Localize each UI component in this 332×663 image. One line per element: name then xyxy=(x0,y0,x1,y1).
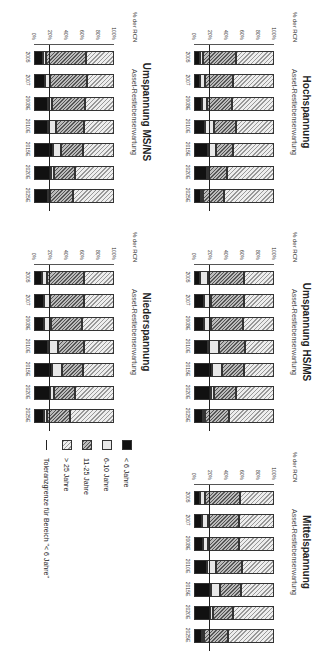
stacked-bar xyxy=(194,51,274,65)
bar-segment xyxy=(244,363,274,377)
x-tick: 2010E xyxy=(25,336,31,356)
stacked-bar xyxy=(34,166,114,180)
legend-item-gt25: > 25 Jahre xyxy=(62,440,72,491)
bar-segment xyxy=(85,97,114,111)
swatch-icon xyxy=(82,440,92,450)
bar-segment xyxy=(213,606,233,620)
panel-hochspannung: HochspannungAsset-Restlebenserwartung% d… xyxy=(172,12,312,212)
y-tick: 0% xyxy=(191,473,197,480)
bar-segment xyxy=(239,514,274,528)
bar-segment xyxy=(241,583,274,597)
x-tick: 2020E xyxy=(185,382,191,402)
plot-area xyxy=(34,44,114,211)
x-tick: 2015E xyxy=(25,359,31,379)
legend-item-6-10: 6-10 Jahre xyxy=(102,440,112,491)
stacked-bar xyxy=(34,189,114,203)
bar-segment xyxy=(240,491,274,505)
stacked-bar xyxy=(194,386,274,400)
bar-segment xyxy=(203,189,224,203)
y-tick: 0% xyxy=(191,33,197,40)
bar-segment xyxy=(214,120,236,134)
bar-segment xyxy=(236,120,274,134)
stacked-bar xyxy=(194,294,274,308)
bar-segment xyxy=(242,560,274,574)
bar-segment xyxy=(53,143,61,157)
bar-segment xyxy=(50,294,84,308)
bar-segment xyxy=(194,606,210,620)
bar-segment xyxy=(194,317,204,331)
bar-segment xyxy=(200,74,205,88)
x-tick: 2025E xyxy=(185,405,191,425)
bar-segment xyxy=(208,537,238,551)
plot-area xyxy=(194,484,274,651)
x-tick: 2025E xyxy=(25,185,31,205)
bar-segment xyxy=(87,74,114,88)
bar-segment xyxy=(208,514,239,528)
plot-area xyxy=(34,264,114,431)
bar-segment xyxy=(216,143,233,157)
x-tick: 2007 xyxy=(185,290,191,310)
x-tick: 2008E xyxy=(185,313,191,333)
bar-segment xyxy=(239,537,274,551)
stacked-bar xyxy=(34,294,114,308)
bar-segment xyxy=(194,629,202,643)
bar-segment xyxy=(194,514,202,528)
bar-segment xyxy=(224,189,274,203)
bar-segment xyxy=(211,386,214,400)
panel-title: Umspannung HS/MS xyxy=(301,232,312,432)
legend-item-11-25: 11-25 Jahre xyxy=(82,440,92,495)
stacked-bar xyxy=(194,537,274,551)
bar-segment xyxy=(50,189,73,203)
bar-segment xyxy=(200,491,205,505)
bar-segment xyxy=(34,271,42,285)
bar-segment xyxy=(84,271,114,285)
bar-segment xyxy=(43,51,46,65)
bar-segment xyxy=(34,317,44,331)
tolerance-line xyxy=(209,45,210,211)
bar-segment xyxy=(61,143,83,157)
bar-segment xyxy=(232,97,274,111)
bar-segment xyxy=(34,143,53,157)
stacked-bar xyxy=(34,363,114,377)
bar-segment xyxy=(200,51,203,65)
bar-segment xyxy=(202,97,207,111)
bar-segment xyxy=(244,271,274,285)
bar-segment xyxy=(46,51,86,65)
bar-segment xyxy=(200,271,207,285)
bar-segment xyxy=(211,294,244,308)
panel-mittelspannung: MittelspannungAsset-Restlebenserwartung%… xyxy=(172,452,312,652)
y-tick: 100% xyxy=(271,467,277,480)
bar-segment xyxy=(73,189,114,203)
y-tick: 80% xyxy=(95,250,101,260)
bar-segment xyxy=(50,386,54,400)
bar-segment xyxy=(194,560,207,574)
bar-segment xyxy=(233,74,274,88)
bar-segment xyxy=(58,340,84,354)
x-tick: 2008E xyxy=(25,313,31,333)
y-tick: 60% xyxy=(239,250,245,260)
bar-segment xyxy=(201,189,203,203)
swatch-icon xyxy=(122,440,132,450)
x-tick: 2010E xyxy=(185,556,191,576)
y-tick: 40% xyxy=(223,250,229,260)
bar-segment xyxy=(243,317,274,331)
stacked-bar xyxy=(194,143,274,157)
bar-segment xyxy=(34,189,48,203)
y-tick: 60% xyxy=(79,30,85,40)
bar-segment xyxy=(52,97,86,111)
bar-segment xyxy=(34,386,50,400)
x-tick: 2008E xyxy=(25,93,31,113)
y-axis-label: % der RCN xyxy=(131,12,138,42)
stacked-bar xyxy=(194,271,274,285)
stacked-bar xyxy=(194,74,274,88)
x-tick: 2005 xyxy=(25,267,31,287)
stacked-bar xyxy=(194,606,274,620)
x-tick: 2005 xyxy=(185,267,191,287)
y-axis: 0%20%40%60%80%100% xyxy=(194,30,274,42)
stacked-bar xyxy=(194,363,274,377)
x-tick: 2008E xyxy=(185,533,191,553)
bar-segment xyxy=(194,537,203,551)
x-tick: 2005 xyxy=(185,47,191,67)
y-axis: 0%20%40%60%80%100% xyxy=(34,30,114,42)
panel-title: Niederspannung xyxy=(141,232,152,432)
